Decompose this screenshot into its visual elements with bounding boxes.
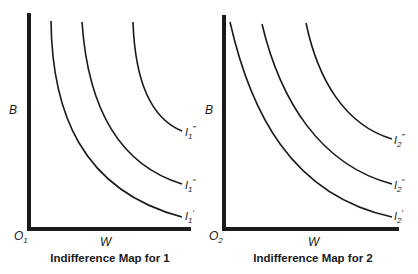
indifference-curve-1-high <box>133 22 182 131</box>
y-axis-label-1: B <box>9 103 17 117</box>
curve-label-1-low: I1′ <box>185 208 195 225</box>
indifference-curve-1-mid <box>82 22 182 184</box>
indifference-maps-diagram: B O1 W I1‴ I1″ I1′ Indifference Map for … <box>0 0 418 274</box>
panel-title-1: Indifference Map for 1 <box>50 252 170 264</box>
x-axis-label-2: W <box>308 235 321 249</box>
x-axis-label-1: W <box>100 235 113 249</box>
indifference-curve-2-high <box>306 23 392 139</box>
origin-label-1: O1 <box>14 229 28 245</box>
panel-title-2: Indifference Map for 2 <box>253 252 373 264</box>
curve-label-1-high: I1‴ <box>185 124 197 141</box>
y-axis-label-2: B <box>205 103 213 117</box>
origin-label-2: O2 <box>209 229 223 245</box>
curve-label-2-mid: I2″ <box>394 177 406 194</box>
indifference-curve-1-low <box>51 21 182 217</box>
indifference-curve-2-mid <box>262 24 392 184</box>
panel-2: B O2 W I2‴ I2″ I2′ Indifference Map for … <box>205 15 406 264</box>
curve-label-1-mid: I1″ <box>185 177 197 194</box>
indifference-curve-2-low <box>230 22 392 217</box>
panel-1: B O1 W I1‴ I1″ I1′ Indifference Map for … <box>9 13 197 264</box>
curve-label-2-low: I2′ <box>394 208 404 225</box>
curve-label-2-high: I2‴ <box>394 132 406 149</box>
